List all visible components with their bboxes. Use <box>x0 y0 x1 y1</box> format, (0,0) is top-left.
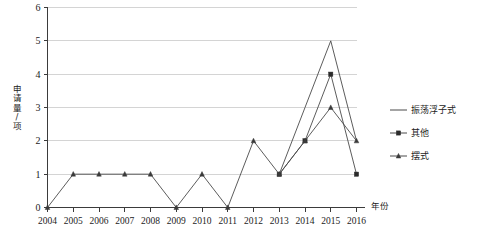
x-tick-label-2011: 2011 <box>218 216 237 226</box>
marker-1-2015 <box>329 72 333 76</box>
y-tick-label-0: 0 <box>36 202 41 213</box>
x-tick-label-2008: 2008 <box>141 216 160 226</box>
y-tick-label-2: 2 <box>36 135 41 146</box>
line-chart: 0123456 20042005200620072008200920102011… <box>0 0 483 238</box>
y-tick-label-1: 1 <box>36 169 41 180</box>
y-tick-label-6: 6 <box>36 2 41 13</box>
x-tick-label-2010: 2010 <box>193 216 212 226</box>
legend-label-1: 其他 <box>411 127 429 138</box>
y-axis-title-char-4: 项 <box>13 121 22 131</box>
series-line-2 <box>48 108 357 208</box>
legend-marker-square-1 <box>396 131 400 135</box>
data-series <box>45 41 359 210</box>
gridlines <box>48 8 357 175</box>
chart-legend: 振荡浮子式其他摆式 <box>390 104 456 161</box>
x-tick-label-2009: 2009 <box>167 216 186 226</box>
marker-1-2016 <box>354 172 358 176</box>
legend-item-1[interactable]: 其他 <box>390 127 429 138</box>
y-tick-label-5: 5 <box>36 35 41 46</box>
axis-ticks <box>44 8 357 212</box>
x-axis-title: 年份 <box>371 201 389 211</box>
legend-label-0: 振荡浮子式 <box>411 104 456 115</box>
legend-item-0[interactable]: 振荡浮子式 <box>390 104 456 115</box>
y-tick-label-3: 3 <box>36 102 41 113</box>
x-tick-label-2004: 2004 <box>38 216 57 226</box>
y-tick-label-4: 4 <box>36 69 41 80</box>
x-tick-label-2006: 2006 <box>90 216 109 226</box>
x-tick-label-2014: 2014 <box>296 216 315 226</box>
legend-label-2: 摆式 <box>411 150 429 161</box>
x-tick-labels: 2004200520062007200820092010201120122013… <box>38 216 366 226</box>
y-axis-title: 申请量/项 <box>13 84 22 132</box>
x-tick-label-2012: 2012 <box>244 216 263 226</box>
series-2 <box>45 105 359 210</box>
x-tick-label-2013: 2013 <box>270 216 289 226</box>
x-axis-title: 年份 <box>371 201 389 211</box>
x-tick-label-2015: 2015 <box>321 216 340 226</box>
x-tick-label-2007: 2007 <box>115 216 134 226</box>
x-tick-label-2016: 2016 <box>347 216 366 226</box>
x-tick-label-2005: 2005 <box>64 216 83 226</box>
legend-item-2[interactable]: 摆式 <box>390 150 429 161</box>
y-tick-labels: 0123456 <box>36 2 41 213</box>
chart-container: 0123456 20042005200620072008200920102011… <box>0 0 483 238</box>
